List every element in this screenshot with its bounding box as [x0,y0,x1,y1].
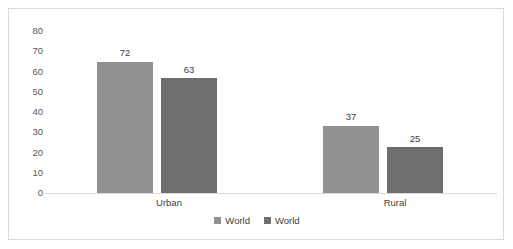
y-tick-label: 50 [32,87,43,97]
bar-value-label: 72 [97,48,153,58]
legend-item[interactable]: World [264,216,300,226]
plot-area: 72 63 37 25 [45,31,497,193]
legend-swatch-icon [214,217,221,224]
legend-item[interactable]: World [214,216,250,226]
y-tick-label: 0 [38,188,43,198]
y-tick-label: 60 [32,67,43,77]
y-axis: 80 70 60 50 40 30 20 10 0 [17,31,43,193]
x-axis-line [45,193,497,194]
bar-value-label: 37 [323,112,379,122]
bar-value-label: 25 [387,134,443,144]
y-tick-label: 10 [32,168,43,178]
chart-frame: 80 70 60 50 40 30 20 10 0 72 63 37 25 Ur… [8,8,504,240]
bar-urban-series1[interactable] [97,62,153,193]
legend: World World [9,216,505,226]
bar-rural-series1[interactable] [323,126,379,193]
bar-urban-series2[interactable] [161,78,217,193]
y-tick-label: 40 [32,107,43,117]
y-tick-label: 20 [32,148,43,158]
y-tick-label: 80 [32,26,43,36]
x-category-label-urban: Urban [97,198,241,208]
bar-value-label: 63 [161,65,217,75]
y-tick-label: 30 [32,128,43,138]
y-tick-label: 70 [32,47,43,57]
legend-swatch-icon [264,217,271,224]
legend-item-label: World [225,216,250,226]
bar-rural-series2[interactable] [387,147,443,193]
x-category-label-rural: Rural [323,198,467,208]
legend-item-label: World [275,216,300,226]
